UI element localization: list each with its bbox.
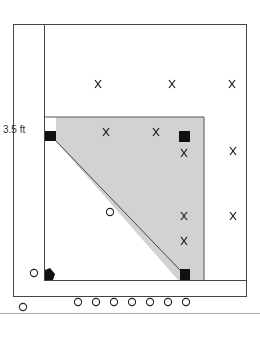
circle-mark — [19, 303, 26, 310]
circle-mark — [146, 298, 153, 305]
x-mark — [169, 80, 175, 88]
x-mark — [230, 212, 236, 220]
circle-mark — [182, 298, 189, 305]
x-mark — [95, 80, 101, 88]
circle-mark — [30, 269, 37, 276]
circle-mark — [74, 298, 81, 305]
square-marker — [179, 131, 190, 142]
pentagon-marker — [45, 268, 55, 280]
dimension-label: 3.5 ft — [3, 124, 25, 135]
floor-plan-diagram — [0, 0, 260, 343]
square-marker — [45, 131, 56, 141]
circle-mark — [128, 298, 135, 305]
square-marker — [180, 269, 190, 280]
circle-mark — [110, 298, 117, 305]
circle-mark — [164, 298, 171, 305]
circle-mark — [92, 298, 99, 305]
x-mark — [229, 80, 235, 88]
circle-mark — [106, 208, 113, 215]
x-mark — [230, 147, 236, 155]
